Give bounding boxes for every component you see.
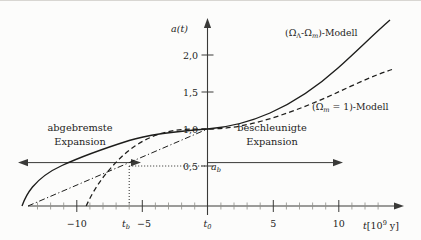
legend-omega-m-1: (Ωm = 1)-Modell: [312, 101, 389, 114]
x-tick-label-10: 10: [333, 218, 345, 229]
decelerated-expansion-annotation: abgebremste Expansion: [48, 122, 113, 147]
y-axis-arrowhead: [204, 18, 211, 28]
y-tick-label-2-0: 2,0: [183, 50, 198, 61]
y-tick-label-1-0: 1,0: [183, 124, 198, 135]
x-tick-label-5: 5: [270, 218, 276, 229]
x-axis-arrowhead: [394, 202, 404, 209]
decelerated-expansion-line2: Expansion: [54, 136, 106, 147]
region-arrows-group: [18, 159, 343, 166]
accelerated-expansion-line1: beschleunigte: [237, 122, 307, 133]
y-tick-label-0-5: 0,5: [183, 161, 198, 172]
x-tick-label-minus-10: −10: [67, 218, 87, 229]
guide-lines-group: [129, 166, 205, 205]
y-tick-label-1-5: 1,5: [183, 87, 198, 98]
omega-lambda-omega-m-curve: [22, 20, 390, 206]
accelerated-expansion-line2: Expansion: [246, 136, 298, 147]
t-sub-b-label: tb: [122, 218, 130, 231]
decelerated-arrowhead-left: [18, 159, 28, 166]
x-tick-label-minus-5: −5: [137, 218, 151, 229]
decelerated-arrowhead-right: [131, 159, 141, 166]
accelerated-expansion-annotation: beschleunigte Expansion: [237, 122, 307, 147]
t-sub-0-label: t0: [203, 218, 211, 231]
accelerated-arrowhead-right: [333, 159, 343, 166]
decelerated-expansion-line1: abgebremste: [48, 122, 113, 133]
legend-omega-lambda-omega-m: (ΩΛ-Ωm)-Modell: [285, 27, 358, 40]
x-axis-title: t[109 y]: [363, 219, 399, 231]
figure-canvas: a(t) 2,0 1,5 1,0 0,5 ab −10 −5 5 10 t0 t…: [0, 0, 421, 240]
omega-m-1-curve: [86, 70, 392, 207]
y-axis-title: a(t): [171, 23, 188, 34]
cosmology-scale-factor-plot: a(t) 2,0 1,5 1,0 0,5 ab −10 −5 5 10 t0 t…: [0, 0, 421, 240]
axes-group: [28, 18, 404, 215]
